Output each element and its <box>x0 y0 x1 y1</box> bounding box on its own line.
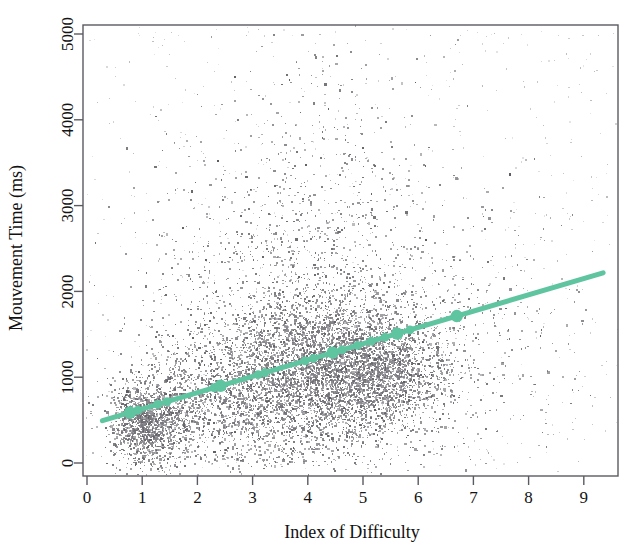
mean-marker <box>451 310 463 322</box>
y-tick-label: 3000 <box>58 189 77 223</box>
mean-marker <box>391 327 403 339</box>
mean-marker <box>260 368 269 377</box>
y-tick-label: 0 <box>58 459 77 468</box>
mean-marker <box>153 400 162 409</box>
y-axis-title: Mouvement Time (ms) <box>6 165 27 331</box>
mean-marker <box>326 346 338 358</box>
x-tick-label: 8 <box>524 488 533 507</box>
y-tick-label: 1000 <box>58 360 77 394</box>
y-tick-label: 4000 <box>58 103 77 137</box>
x-tick-label: 1 <box>138 488 147 507</box>
mean-marker <box>381 333 390 342</box>
mean-marker <box>214 380 226 392</box>
y-tick-label: 5000 <box>58 17 77 51</box>
x-tick-label: 4 <box>304 488 313 507</box>
x-tick-label: 5 <box>359 488 368 507</box>
x-tick-label: 9 <box>580 488 589 507</box>
figure-background <box>0 0 635 557</box>
x-tick-label: 0 <box>83 488 92 507</box>
mean-marker <box>353 341 362 350</box>
mean-marker <box>309 354 318 363</box>
mean-marker <box>367 337 376 346</box>
x-tick-label: 2 <box>193 488 202 507</box>
mean-marker <box>133 406 142 415</box>
mean-marker <box>301 357 310 366</box>
x-tick-label: 3 <box>248 488 257 507</box>
x-tick-label: 6 <box>414 488 423 507</box>
scatter-plot-figure: 0123456789010002000300040005000 Index of… <box>0 0 635 557</box>
x-axis-title: Index of Difficulty <box>284 522 420 542</box>
x-tick-label: 7 <box>469 488 478 507</box>
y-tick-label: 2000 <box>58 274 77 308</box>
mean-marker <box>338 346 347 355</box>
chart-page: 0123456789010002000300040005000 Index of… <box>0 0 635 557</box>
mean-marker <box>163 397 172 406</box>
mean-marker <box>406 325 415 334</box>
